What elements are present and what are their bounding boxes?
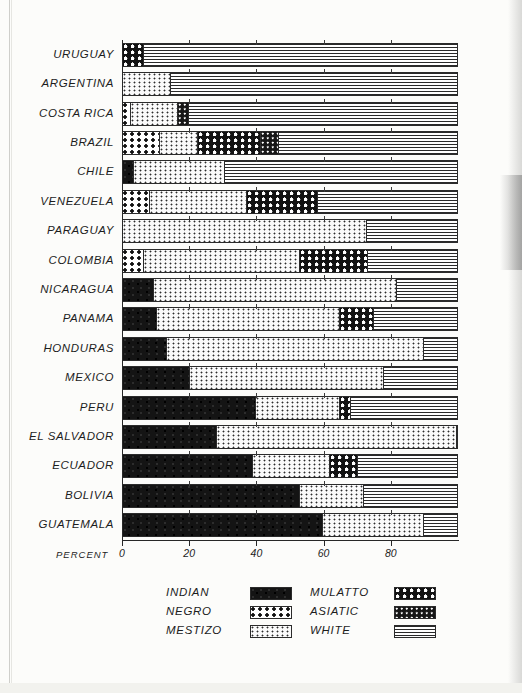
bar-segment-mestizo — [144, 250, 301, 272]
legend-row: WHITE — [150, 624, 440, 641]
bar-segment-white — [397, 279, 457, 301]
bar-segment-mestizo — [190, 367, 384, 389]
bar-gridtick — [324, 275, 325, 280]
bar-segment-mestizo — [123, 220, 367, 242]
country-label: BRAZIL — [0, 136, 114, 148]
bar-row — [122, 396, 458, 420]
bar-row — [122, 43, 458, 67]
bar-segment-white — [189, 103, 457, 125]
bar-row — [122, 513, 458, 537]
stacked-bar — [122, 131, 458, 155]
bar-segment-mestizo — [323, 514, 424, 536]
bar-gridtick — [256, 275, 257, 280]
bar-segment-mestizo — [150, 191, 247, 213]
bar-row — [122, 454, 458, 478]
bar-segment-negro — [123, 250, 144, 272]
bar-gridtick — [391, 128, 392, 133]
bar-gridtick — [324, 99, 325, 104]
bar-segment-negro — [123, 191, 150, 213]
bar-gridtick — [391, 69, 392, 74]
bar-gridtick — [324, 69, 325, 74]
legend-row: ASIATIC — [150, 605, 440, 622]
stacked-bar — [122, 190, 458, 214]
bar-gridtick — [189, 187, 190, 192]
country-label: COSTA RICA — [0, 107, 114, 119]
bar-gridtick — [256, 451, 257, 456]
bar-row — [122, 278, 458, 302]
bar-segment-white — [374, 308, 457, 330]
bar-segment-indian — [123, 485, 300, 507]
bar-segment-white — [225, 161, 457, 183]
bar-segment-mestizo — [167, 338, 424, 360]
bar-segment-mestizo — [131, 103, 178, 125]
stacked-bar — [122, 249, 458, 273]
scan-glare — [500, 175, 522, 270]
bar-gridtick — [256, 481, 257, 486]
bar-segment-white — [367, 220, 457, 242]
legend-label: ASIATIC — [310, 605, 359, 617]
country-label: NICARAGUA — [0, 283, 114, 295]
bar-gridtick — [391, 40, 392, 45]
country-label: EL SALVADOR — [0, 430, 114, 442]
bar-row — [122, 249, 458, 273]
bar-gridtick — [391, 157, 392, 162]
plot-area — [122, 40, 458, 540]
legend-swatch-white — [394, 625, 436, 638]
stacked-bar — [122, 396, 458, 420]
bar-segment-white — [358, 455, 457, 477]
stacked-bar — [122, 307, 458, 331]
bar-segment-indian — [123, 279, 154, 301]
bar-segment-white — [318, 191, 457, 213]
bar-gridtick — [189, 246, 190, 251]
x-tick-label: 0 — [119, 547, 125, 559]
x-tick-label: 60 — [318, 547, 330, 559]
bar-gridtick — [256, 334, 257, 339]
bar-segment-mestizo — [154, 279, 397, 301]
bar-gridtick — [256, 422, 257, 427]
bar-segment-indian — [123, 426, 217, 448]
bar-segment-mestizo — [253, 455, 330, 477]
bar-segment-mestizo — [134, 161, 225, 183]
country-label: ECUADOR — [0, 459, 114, 471]
bar-segment-indian — [123, 308, 157, 330]
country-label: GUATEMALA — [0, 518, 114, 530]
bar-gridtick — [324, 393, 325, 398]
bar-gridtick — [324, 216, 325, 221]
bar-gridtick — [256, 40, 257, 45]
bar-segment-mestizo — [160, 132, 197, 154]
bar-gridtick — [189, 40, 190, 45]
bar-segment-mestizo — [157, 308, 340, 330]
bar-gridtick — [391, 422, 392, 427]
bar-segment-mestizo — [256, 397, 340, 419]
bar-segment-mulatto — [340, 397, 351, 419]
bar-gridtick — [324, 246, 325, 251]
bar-row — [122, 160, 458, 184]
bar-segment-mulatto — [340, 308, 374, 330]
bar-gridtick — [391, 187, 392, 192]
bar-segment-mulatto — [198, 132, 262, 154]
bar-gridtick — [324, 128, 325, 133]
bar-gridtick — [189, 275, 190, 280]
country-label: HONDURAS — [0, 342, 114, 354]
stacked-bar — [122, 278, 458, 302]
bar-gridtick — [324, 451, 325, 456]
bar-gridtick — [391, 393, 392, 398]
bar-segment-white — [351, 397, 457, 419]
bar-row — [122, 484, 458, 508]
bar-segment-indian — [123, 367, 190, 389]
bar-gridtick — [324, 187, 325, 192]
bar-segment-white — [144, 44, 457, 66]
stacked-bar — [122, 454, 458, 478]
bar-segment-indian — [123, 514, 323, 536]
bar-segment-mulatto — [330, 455, 357, 477]
bar-segment-mestizo — [300, 485, 364, 507]
bar-segment-asiatic — [261, 132, 279, 154]
stacked-bar — [122, 219, 458, 243]
bar-gridtick — [324, 481, 325, 486]
bar-segment-indian — [123, 338, 167, 360]
x-tick — [256, 540, 257, 546]
bar-segment-asiatic — [178, 103, 189, 125]
bar-segment-white — [424, 514, 457, 536]
bar-segment-indian — [123, 161, 134, 183]
stacked-bar — [122, 425, 458, 449]
